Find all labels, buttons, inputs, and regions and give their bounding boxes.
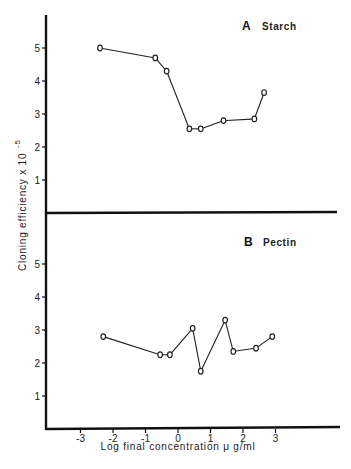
data-point-marker [190, 326, 195, 332]
y-tick-label: 4 [34, 76, 40, 87]
panel-a-letter: A [242, 19, 251, 33]
data-point-marker [262, 90, 267, 96]
y-tick-label: 2 [34, 142, 40, 153]
x-tick-label: -3 [76, 433, 85, 444]
y-tick-label: 3 [34, 325, 40, 336]
panel-b-x-axis [46, 427, 340, 429]
panel-b-pectin: 12345-3-2-10123 [34, 259, 278, 445]
data-point-marker [101, 334, 106, 340]
data-point-marker [270, 334, 275, 340]
y-axis-title: Cloning efficiency x 10 -5 [13, 139, 28, 271]
series-line-segment [203, 121, 221, 127]
data-point-marker [164, 68, 169, 74]
data-point-marker [168, 352, 173, 358]
panel-a-starch: 12345 [34, 43, 266, 186]
data-point-marker [223, 317, 228, 323]
y-tick-label: 3 [34, 109, 40, 120]
data-point-marker [158, 352, 163, 358]
data-point-marker [198, 126, 203, 132]
series-line-segment [172, 330, 191, 352]
series-line-segment [226, 119, 252, 120]
series-line-segment [157, 60, 165, 69]
series-line-segment [103, 48, 153, 57]
data-point-marker [221, 118, 226, 124]
series-line-segment [255, 95, 263, 117]
x-axis-title: Log final concentration μ g/ml [101, 441, 256, 452]
data-point-marker [153, 55, 158, 61]
series-line-segment [193, 331, 200, 369]
panel-a-title: Starch [262, 21, 297, 32]
series-line-segment [168, 74, 189, 127]
y-tick-label: 5 [34, 259, 40, 270]
data-point-marker [187, 126, 192, 132]
data-point-marker [254, 345, 259, 351]
y-tick-label: 4 [34, 292, 40, 303]
y-axis-title-exponent: -5 [13, 139, 22, 148]
y-axis-title-text: Cloning efficiency x 10 [17, 153, 28, 271]
y-tick-label: 2 [34, 358, 40, 369]
panel-a-x-axis [46, 212, 337, 213]
data-point-marker [252, 116, 257, 122]
series-line-segment [236, 349, 254, 352]
data-point-marker [231, 349, 236, 355]
figure: 12345 12345-3-2-10123 A Starch B Pectin … [0, 0, 351, 469]
series-line-segment [258, 338, 270, 347]
y-tick-label: 5 [34, 43, 40, 54]
data-point-marker [198, 368, 203, 374]
x-tick-label: 3 [273, 433, 279, 444]
series-line-segment [226, 323, 233, 349]
y-tick-label: 1 [34, 175, 40, 186]
panel-b-title: Pectin [263, 237, 297, 248]
series-line-segment [202, 322, 224, 368]
y-tick-label: 1 [34, 391, 40, 402]
panel-b-letter: B [244, 235, 253, 249]
series-line-segment [106, 337, 158, 354]
data-point-marker [98, 45, 103, 51]
axes [46, 15, 340, 430]
